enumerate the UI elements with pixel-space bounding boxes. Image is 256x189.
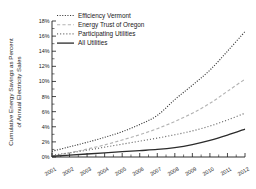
series-line-all-utilities (52, 129, 245, 156)
y-tick-label: 16% (39, 33, 50, 39)
y-tick-label: 2% (42, 139, 50, 145)
series-line-energy-trust-of-oregon (52, 79, 245, 156)
x-tick-label: 2003 (79, 166, 92, 177)
series-line-participating-utilities (52, 113, 245, 155)
y-axis-ticks (52, 21, 56, 157)
y-tick-label: 10% (39, 78, 50, 84)
y-tick-label: 12% (39, 63, 50, 69)
x-tick-label: 2007 (149, 166, 162, 177)
x-tick-label: 2005 (114, 166, 127, 177)
x-tick-label: 2010 (202, 166, 215, 177)
legend-label-2: Energy Trust of Oregon (78, 21, 145, 29)
x-tick-label: 2012 (237, 166, 250, 177)
legend-label-4: All Utilities (78, 39, 107, 46)
x-tick-label: 2006 (131, 166, 144, 177)
chart-legend: Efficiency VermontEnergy Trust of Oregon… (57, 12, 145, 47)
y-tick-label: 8% (42, 94, 50, 100)
legend-label-1: Efficiency Vermont (78, 12, 131, 20)
legend-label-3: Participating Utilities (78, 30, 136, 38)
chart-canvas: Cumulative Energy Savings as Percent of … (0, 0, 256, 189)
y-tick-label: 6% (42, 109, 50, 115)
y-tick-label: 4% (42, 124, 50, 130)
chart-figure: Cumulative Energy Savings as Percent of … (0, 0, 256, 189)
series-lines (52, 32, 245, 157)
x-tick-label: 2008 (166, 166, 179, 177)
y-tick-labels: 0%2%4%6%8%10%12%14%16%18% (39, 18, 50, 160)
x-tick-label: 2002 (61, 166, 74, 177)
x-tick-label: 2004 (96, 166, 109, 177)
y-tick-label: 0% (42, 154, 50, 160)
x-tick-label: 2009 (184, 166, 197, 177)
x-tick-label: 2001 (44, 166, 57, 177)
x-tick-label: 2011 (219, 166, 232, 177)
series-line-efficiency-vermont (52, 32, 245, 152)
y-tick-label: 14% (39, 48, 50, 54)
y-tick-label: 18% (39, 18, 50, 24)
y-axis-title: Cumulative Energy Savings as Percent of … (7, 38, 22, 146)
x-tick-labels: 2001200220032004200520062007200820092010… (44, 166, 250, 177)
y-axis-title-line1: Cumulative Energy Savings as Percent (7, 38, 14, 146)
y-axis-title-line2: of Annual Electricity Sales (15, 56, 22, 127)
